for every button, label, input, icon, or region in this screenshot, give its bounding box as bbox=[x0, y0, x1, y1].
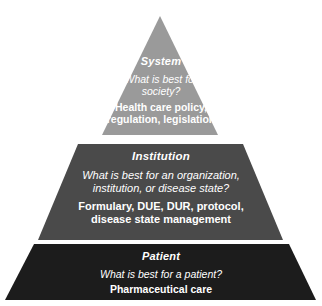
tier-system-question-line-2: society? bbox=[0, 85, 322, 97]
tier-institution-statement: Formulary, DUE, DUR, protocol, disease s… bbox=[0, 200, 322, 226]
pyramid-tier-system-label-group: System What is best for society? Health … bbox=[0, 55, 322, 125]
tier-patient-heading: Patient bbox=[0, 250, 322, 263]
tier-patient-question: What is best for a patient? bbox=[0, 268, 322, 280]
pyramid-tier-institution-label-group: Institution What is best for an organiza… bbox=[0, 150, 322, 225]
tier-patient-question-line-1: What is best for a patient? bbox=[0, 268, 322, 280]
pyramid-diagram: System What is best for society? Health … bbox=[0, 0, 322, 306]
tier-system-question: What is best for society? bbox=[0, 73, 322, 97]
tier-institution-statement-line-2: disease state management bbox=[0, 213, 322, 226]
tier-institution-question-line-2: institution, or disease state? bbox=[0, 182, 322, 195]
tier-institution-question: What is best for an organization, instit… bbox=[0, 169, 322, 195]
tier-patient-statement-line-1: Pharmaceutical care bbox=[0, 283, 322, 295]
tier-system-heading: System bbox=[0, 55, 322, 68]
tier-system-statement-line-1: Health care policy, bbox=[0, 101, 322, 113]
tier-institution-heading: Institution bbox=[0, 150, 322, 163]
tier-system-statement: Health care policy, regulation, legislat… bbox=[0, 101, 322, 125]
tier-institution-question-line-1: What is best for an organization, bbox=[0, 169, 322, 182]
tier-institution-statement-line-1: Formulary, DUE, DUR, protocol, bbox=[0, 200, 322, 213]
tier-system-statement-line-2: regulation, legislation bbox=[0, 113, 322, 125]
pyramid-tier-patient-label-group: Patient What is best for a patient? Phar… bbox=[0, 250, 322, 295]
tier-patient-statement: Pharmaceutical care bbox=[0, 283, 322, 295]
tier-system-question-line-1: What is best for bbox=[0, 73, 322, 85]
